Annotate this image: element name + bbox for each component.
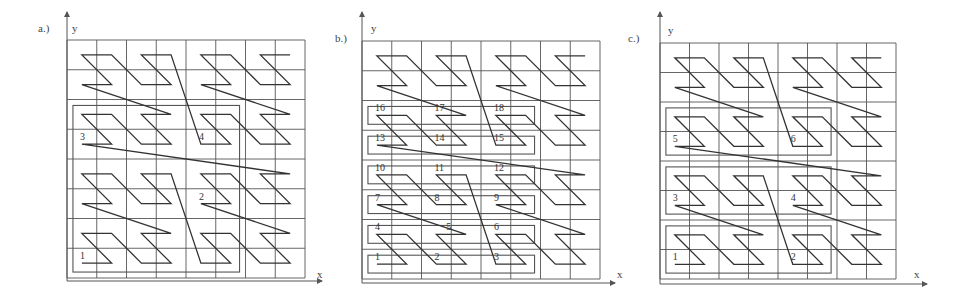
region-number-label: 10 bbox=[375, 163, 385, 173]
region-number-label: 12 bbox=[494, 163, 504, 173]
region-number-label: 3 bbox=[494, 252, 499, 262]
panel-a: a.) y x 1234 bbox=[0, 0, 321, 297]
region-number-label: 9 bbox=[494, 193, 499, 203]
region-number-label: 11 bbox=[434, 163, 444, 173]
z-order-grid-a bbox=[0, 0, 330, 297]
z-order-grid-b bbox=[320, 0, 650, 297]
panel-c: c.) y x 123456 bbox=[640, 0, 961, 297]
region-number-label: 1 bbox=[673, 252, 678, 262]
region-number-label: 16 bbox=[375, 103, 385, 113]
region-number-label: 6 bbox=[791, 134, 796, 144]
panel-label-c: c.) bbox=[628, 32, 639, 44]
region-number-label: 15 bbox=[494, 133, 504, 143]
region-number-label: 3 bbox=[673, 193, 678, 203]
region-number-label: 7 bbox=[375, 193, 380, 203]
panel-b: b.) y x 123456789101112131415161718 bbox=[320, 0, 641, 297]
region-number-label: 2 bbox=[791, 252, 796, 262]
region-number-label: 8 bbox=[434, 193, 439, 203]
region-number-label: 2 bbox=[434, 252, 439, 262]
region-number-label: 18 bbox=[494, 103, 504, 113]
region-number-label: 4 bbox=[199, 132, 204, 142]
region-number-label: 1 bbox=[375, 252, 380, 262]
z-order-grid-c bbox=[640, 0, 964, 297]
region-number-label: 5 bbox=[673, 134, 678, 144]
region-number-label: 1 bbox=[80, 251, 85, 261]
region-number-label: 6 bbox=[494, 222, 499, 232]
region-number-label: 2 bbox=[199, 192, 204, 202]
region-number-label: 4 bbox=[791, 193, 796, 203]
region-number-label: 13 bbox=[375, 133, 385, 143]
region-number-label: 14 bbox=[434, 133, 444, 143]
region-number-label: 3 bbox=[80, 132, 85, 142]
region-number-label: 17 bbox=[434, 103, 444, 113]
region-number-label: 4 bbox=[375, 222, 380, 232]
region-number-label: 5 bbox=[446, 222, 451, 232]
